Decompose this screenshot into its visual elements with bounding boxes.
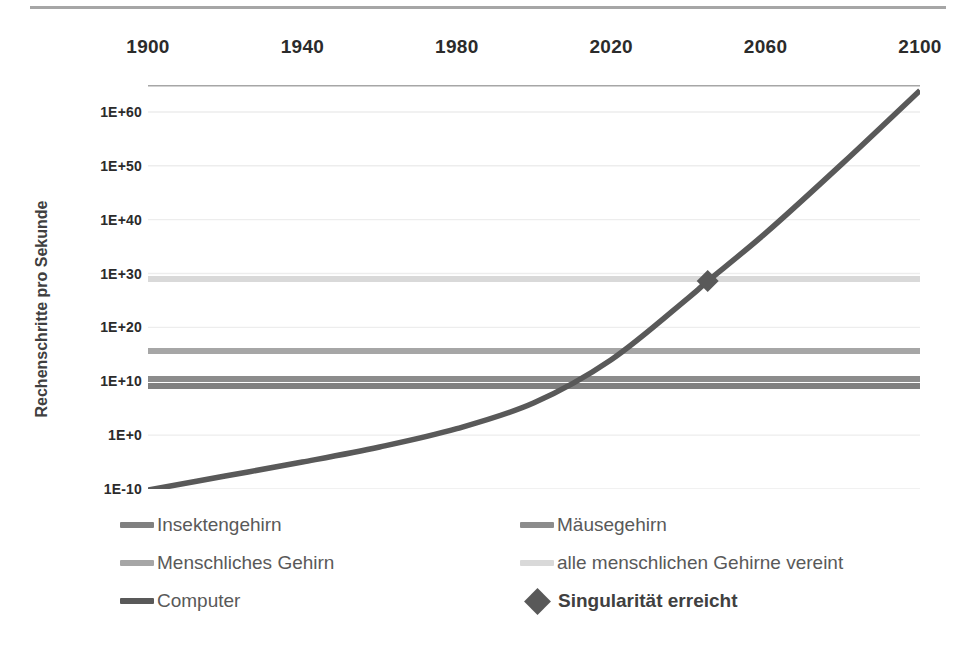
x-tick-label: 2100 (898, 36, 941, 58)
legend-label: Menschliches Gehirn (157, 552, 334, 574)
legend-item[interactable]: Singularität erreicht (520, 584, 738, 618)
chart-svg (148, 85, 920, 489)
legend-line-swatch (120, 522, 154, 528)
legend-label: Computer (157, 590, 240, 612)
x-tick-label: 1980 (435, 36, 478, 58)
y-tick-label: 1E+50 (100, 158, 142, 174)
y-tick-label: 1E+40 (100, 212, 142, 228)
x-axis-tick-labels: 190019401980202020602100 (0, 36, 975, 66)
legend-item[interactable]: alle menschlichen Gehirne vereint (520, 546, 843, 580)
legend-label: Singularität erreicht (558, 590, 738, 612)
y-tick-label: 1E-10 (104, 481, 142, 497)
x-tick-label: 2060 (744, 36, 787, 58)
legend-line-swatch (120, 598, 154, 604)
header-divider (30, 6, 946, 9)
legend-item[interactable]: Computer (120, 584, 240, 618)
x-tick-label: 2020 (589, 36, 632, 58)
y-tick-label: 1E+30 (100, 266, 142, 282)
chart-page: 190019401980202020602100 Rechenschritte … (0, 0, 975, 649)
plot-area (148, 85, 920, 489)
chart-legend: Insektengehirn Menschliches Gehirn Compu… (120, 508, 940, 628)
x-tick-label: 1940 (281, 36, 324, 58)
y-tick-label: 1E+10 (100, 373, 142, 389)
legend-diamond-icon (524, 588, 551, 615)
legend-line-swatch (520, 560, 554, 566)
legend-item[interactable]: Menschliches Gehirn (120, 546, 334, 580)
y-tick-label: 1E+20 (100, 319, 142, 335)
legend-item[interactable]: Mäusegehirn (520, 508, 667, 542)
legend-line-swatch (120, 560, 154, 566)
legend-item[interactable]: Insektengehirn (120, 508, 282, 542)
legend-label: alle menschlichen Gehirne vereint (557, 552, 843, 574)
legend-label: Mäusegehirn (557, 514, 667, 536)
series-line-computer (148, 90, 920, 489)
legend-label: Insektengehirn (157, 514, 282, 536)
y-axis-title: Rechenschritte pro Sekunde (33, 179, 51, 439)
legend-line-swatch (520, 522, 554, 528)
y-tick-label: 1E+60 (100, 104, 142, 120)
y-tick-label: 1E+0 (108, 427, 142, 443)
